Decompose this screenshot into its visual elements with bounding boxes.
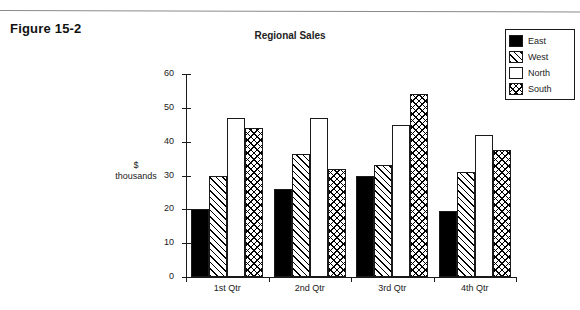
legend-item-south: South xyxy=(509,81,571,97)
legend-item-east: East xyxy=(509,33,571,49)
bar-west-4th-qtr xyxy=(457,172,475,277)
legend-swatch-west-icon xyxy=(509,51,523,63)
chart-title: Regional Sales xyxy=(0,30,580,41)
bar-north-3rd-qtr xyxy=(392,125,410,277)
legend-swatch-east-icon xyxy=(509,35,523,47)
plot-area: 0102030405060 1st Qtr2nd Qtr3rd Qtr4th Q… xyxy=(186,74,516,277)
bar-north-1st-qtr xyxy=(227,118,245,277)
y-axis-tick: 60 xyxy=(182,74,191,75)
y-axis-tick-label: 60 xyxy=(164,68,174,78)
x-axis-category-label: 3rd Qtr xyxy=(378,283,406,293)
legend-label-north: North xyxy=(528,68,550,78)
y-axis-tick-label: 10 xyxy=(164,237,174,247)
y-axis-tick: 30 xyxy=(182,176,191,177)
bar-north-4th-qtr xyxy=(475,135,493,277)
y-axis-tick: 10 xyxy=(182,243,191,244)
bar-east-4th-qtr xyxy=(439,211,457,277)
x-axis-category-label: 4th Qtr xyxy=(461,283,489,293)
legend-label-south: South xyxy=(528,84,552,94)
bar-west-1st-qtr xyxy=(209,176,227,278)
bar-west-3rd-qtr xyxy=(374,165,392,277)
legend-label-east: East xyxy=(528,36,546,46)
bar-south-1st-qtr xyxy=(245,128,263,277)
bar-east-3rd-qtr xyxy=(356,176,374,278)
x-axis-category-label: 1st Qtr xyxy=(214,283,241,293)
y-axis-tick: 20 xyxy=(182,209,191,210)
bar-east-2nd-qtr xyxy=(274,189,292,277)
legend-item-west: West xyxy=(509,49,571,65)
x-axis-tick xyxy=(434,277,435,282)
y-axis-tick: 40 xyxy=(182,142,191,143)
legend-label-west: West xyxy=(528,52,548,62)
legend-item-north: North xyxy=(509,65,571,81)
bar-south-3rd-qtr xyxy=(410,94,428,277)
x-axis-tick xyxy=(351,277,352,282)
y-axis-tick-label: 30 xyxy=(164,170,174,180)
x-axis-category-label: 2nd Qtr xyxy=(295,283,325,293)
bar-south-4th-qtr xyxy=(493,150,511,277)
x-axis-tick xyxy=(186,277,187,282)
bar-west-2nd-qtr xyxy=(292,154,310,277)
y-axis-tick-label: 20 xyxy=(164,203,174,213)
y-axis-tick: 50 xyxy=(182,108,191,109)
figure-page: Figure 15-2 Regional Sales $ thousands E… xyxy=(0,0,580,310)
x-axis-tick xyxy=(516,277,517,282)
y-axis-tick-label: 40 xyxy=(164,136,174,146)
bar-south-2nd-qtr xyxy=(328,169,346,277)
bar-north-2nd-qtr xyxy=(310,118,328,277)
page-top-rule xyxy=(0,10,580,13)
y-axis-tick-label: 0 xyxy=(169,271,174,281)
bar-east-1st-qtr xyxy=(191,209,209,277)
y-axis-tick-label: 50 xyxy=(164,102,174,112)
x-axis-tick xyxy=(269,277,270,282)
